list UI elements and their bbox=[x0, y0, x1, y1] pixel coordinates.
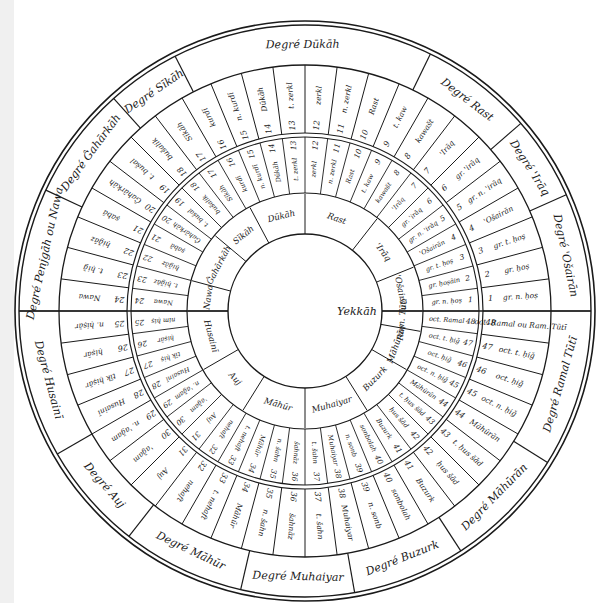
inner-step-name: oct. Ramal bbox=[429, 315, 465, 325]
outer-step-name: t. šahn bbox=[314, 513, 325, 539]
inner-step-number: 13 bbox=[289, 140, 299, 150]
inner-step-name: gr. n. ḥoṣ bbox=[431, 296, 463, 306]
inner-step-number: 20 bbox=[160, 213, 174, 226]
inner-step-name: Auj bbox=[205, 411, 219, 425]
outer-step-number: 31 bbox=[176, 444, 189, 458]
inner-step-number: 19 bbox=[173, 195, 186, 208]
step-divider-inner bbox=[282, 428, 289, 484]
inner-step-name: gr. n. 'irāq bbox=[407, 219, 440, 245]
outer-step-name: ḥiṣār bbox=[83, 347, 104, 360]
inner-step-number: 40 bbox=[372, 452, 385, 466]
degree-label: Degré Rast bbox=[438, 75, 497, 125]
step-divider-outer bbox=[273, 67, 282, 134]
inner-step-name: ḥiǧāz bbox=[160, 259, 180, 272]
inner-step-number: 43 bbox=[423, 413, 437, 427]
degree-label: Degré Māhūr bbox=[153, 528, 228, 573]
outer-step-name: t. zerkl bbox=[285, 81, 296, 109]
inner-step-name: Nawa bbox=[153, 297, 174, 306]
core-label: Buzurk bbox=[360, 364, 389, 394]
inner-step-number: 27 bbox=[142, 359, 155, 371]
outer-step-name: bušalik bbox=[149, 135, 174, 162]
step-divider-outer bbox=[273, 487, 282, 554]
outer-step-name: Dūkāh bbox=[255, 86, 269, 113]
step-divider-outer bbox=[481, 279, 548, 288]
step-divider-outer bbox=[61, 334, 128, 343]
outer-step-number: 1 bbox=[488, 294, 494, 303]
outer-step-name: kurdī bbox=[200, 106, 217, 129]
inner-step-name: gr. t. ḥoṣ bbox=[424, 256, 455, 273]
outer-step-name: t. kaw bbox=[391, 104, 410, 129]
step-divider-inner bbox=[132, 288, 188, 295]
inner-step-name: n. sonb bbox=[343, 433, 358, 458]
inner-step-name: n. 'aǧam bbox=[173, 379, 201, 401]
inner-step-name: nim ḥiṣ bbox=[150, 316, 175, 326]
inner-step-name: kawašt bbox=[374, 181, 394, 205]
inner-step-name: t. ḥiǧāz bbox=[152, 277, 178, 290]
inner-step-number: 37 bbox=[312, 472, 322, 482]
inner-step-name: Rast bbox=[344, 168, 357, 186]
inner-step-number: 8 bbox=[392, 168, 402, 177]
inner-step-number: 38 bbox=[333, 468, 344, 479]
inner-step-number: 15 bbox=[245, 148, 257, 160]
inner-step-name: ṣabā bbox=[169, 241, 186, 255]
outer-step-name: Muhaiyar bbox=[339, 503, 355, 542]
inner-step-name: n. zerkl bbox=[326, 159, 339, 185]
outer-step-number: 26 bbox=[117, 342, 130, 353]
inner-step-number: 17 bbox=[206, 167, 219, 180]
inner-step-number: 23 bbox=[136, 274, 148, 285]
core-label: Auj bbox=[226, 369, 244, 387]
outer-step-number: 27 bbox=[122, 365, 136, 377]
outer-step-name: Buzurk bbox=[414, 476, 437, 505]
inner-step-number: 6 bbox=[425, 196, 435, 206]
core-divider bbox=[243, 376, 264, 410]
outer-step-number: 30 bbox=[159, 427, 173, 440]
outer-step-number: 44 bbox=[452, 407, 466, 421]
inner-step-number: 44 bbox=[436, 396, 450, 409]
inner-step-number: 12 bbox=[311, 140, 321, 150]
step-divider-inner bbox=[320, 138, 327, 194]
outer-step-number: 5 bbox=[455, 202, 464, 212]
outer-step-number: 25 bbox=[114, 319, 126, 329]
outer-step-number: 47 bbox=[481, 341, 495, 352]
inner-step-name: Māhūr bbox=[252, 433, 267, 458]
inner-step-number: 48 bbox=[465, 316, 476, 326]
outer-step-number: 11 bbox=[335, 123, 346, 135]
outer-step-number: 41 bbox=[402, 458, 416, 472]
inner-step-number: 16 bbox=[225, 156, 237, 169]
core-label: Muhaiyar bbox=[310, 393, 354, 415]
degree-divider bbox=[439, 517, 461, 551]
degree-divider bbox=[57, 434, 92, 454]
outer-step-number: 8 bbox=[403, 151, 413, 160]
outer-step-name: kawašt bbox=[413, 117, 436, 145]
outer-step-number: 9 bbox=[382, 140, 392, 149]
outer-step-name: Husainī bbox=[96, 396, 128, 418]
inner-step-number: 21 bbox=[150, 232, 163, 245]
outer-step-number: 22 bbox=[122, 246, 135, 258]
inner-step-name: t. kaw bbox=[359, 172, 375, 194]
inner-step-name: 'Irāq bbox=[390, 196, 406, 213]
outer-step-name: n. šahn bbox=[256, 508, 270, 537]
step-divider-outer bbox=[67, 357, 133, 375]
inner-step-name: kurdī bbox=[234, 173, 249, 193]
inner-step-name: Muhaiyar bbox=[326, 433, 340, 467]
outer-step-name: 'aǧam bbox=[131, 443, 154, 465]
outer-step-name: Māhūr bbox=[228, 501, 245, 529]
degree-divider bbox=[514, 441, 548, 462]
outer-step-name: ḥiǧāz bbox=[89, 235, 111, 250]
inner-step-name: šahnāz bbox=[291, 441, 300, 465]
outer-step-name: tīk ḥiṣār bbox=[84, 372, 117, 391]
inner-step-number: 29 bbox=[161, 397, 175, 410]
inner-step-number: 9 bbox=[373, 158, 383, 166]
inner-step-name: 'Ošairān bbox=[418, 238, 446, 257]
inner-step-name: Māhūrān bbox=[408, 377, 438, 401]
degree-divider bbox=[241, 551, 250, 590]
degree-divider bbox=[413, 54, 431, 90]
outer-step-name: n. sonb bbox=[366, 501, 383, 530]
outer-step-name: oct. t. ḥiǧ bbox=[498, 345, 536, 361]
inner-step-number: 2 bbox=[463, 273, 471, 283]
inner-step-number: 11 bbox=[332, 143, 343, 154]
degree-divider bbox=[129, 505, 154, 537]
inner-step-number: 46 bbox=[455, 358, 468, 370]
inner-step-name: n. šahn bbox=[271, 438, 283, 463]
inner-step-name: bušalik bbox=[200, 193, 222, 216]
